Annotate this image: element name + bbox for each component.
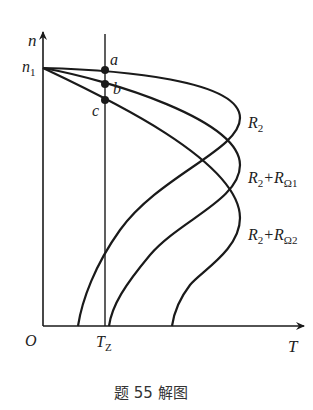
point-b-label: b bbox=[113, 80, 121, 97]
point-c-label: c bbox=[92, 102, 99, 119]
curve-r2-rohm1 bbox=[43, 68, 240, 326]
n-axis-label: n bbox=[28, 31, 37, 50]
t-axis-label: T bbox=[288, 337, 299, 356]
curve-r2-label: R2 bbox=[247, 114, 263, 134]
figure-caption: 题 55 解图 bbox=[114, 384, 188, 402]
curve-r2-rohm2-label: R2+RΩ2 bbox=[247, 226, 298, 246]
point-a bbox=[101, 66, 109, 74]
point-c bbox=[101, 96, 109, 104]
point-b bbox=[101, 80, 109, 88]
tz-label: TZ bbox=[96, 333, 112, 353]
mechanical-characteristic-diagram: n n1 O TZ T a b c R2 R2+RΩ1 R2+RΩ2 题 55 … bbox=[0, 0, 313, 410]
curve-r2-rohm1-label: R2+RΩ1 bbox=[247, 169, 298, 189]
curve-r2-rohm2 bbox=[43, 68, 240, 326]
curve-r2 bbox=[43, 68, 240, 326]
n1-label: n1 bbox=[22, 58, 36, 78]
origin-label: O bbox=[25, 332, 37, 349]
point-a-label: a bbox=[110, 51, 118, 68]
